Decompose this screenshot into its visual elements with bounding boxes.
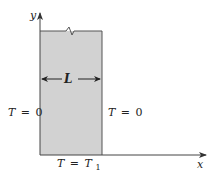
bottom-bc-var: T bbox=[57, 157, 66, 170]
x-axis-label: x bbox=[197, 158, 204, 171]
bottom-bc-value: T bbox=[85, 157, 94, 170]
right-bc-eq: = bbox=[121, 106, 130, 119]
semi-infinite-plate-diagram: y x L T = 0 T = 0 T = T 1 bbox=[0, 0, 218, 178]
left-boundary-condition: T = 0 bbox=[8, 106, 43, 119]
left-bc-eq: = bbox=[21, 106, 30, 119]
right-bc-var: T bbox=[108, 106, 117, 119]
plate-region bbox=[40, 27, 102, 155]
width-label: L bbox=[63, 72, 72, 86]
y-axis-label: y bbox=[29, 9, 37, 22]
bottom-bc-eq: = bbox=[70, 157, 79, 170]
bottom-bc-subscript: 1 bbox=[95, 163, 100, 172]
left-bc-value: 0 bbox=[36, 106, 43, 119]
right-boundary-condition: T = 0 bbox=[108, 106, 143, 119]
bottom-boundary-condition: T = T 1 bbox=[57, 157, 101, 172]
left-bc-var: T bbox=[8, 106, 17, 119]
plate-fill bbox=[40, 31, 102, 155]
right-bc-value: 0 bbox=[136, 106, 143, 119]
